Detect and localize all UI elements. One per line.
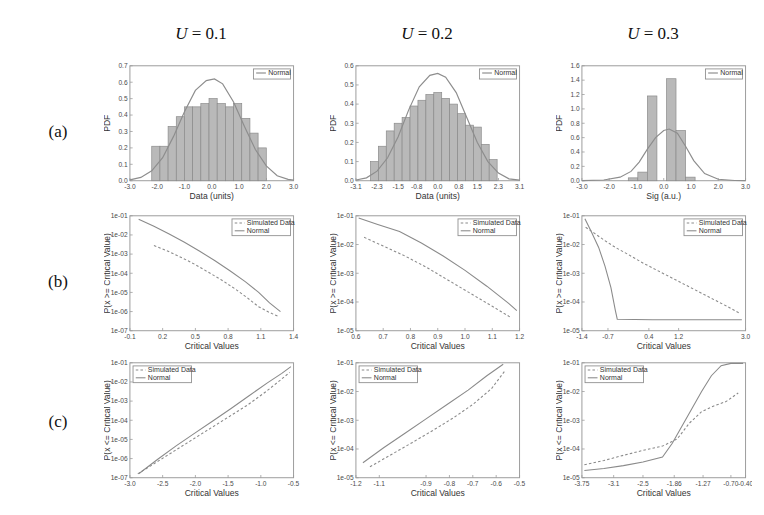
x-axis-label: Data (units) (416, 191, 460, 201)
legend-label: Normal (720, 69, 743, 76)
x-tick-label: -1.86 (667, 480, 682, 487)
histogram-bar (217, 104, 225, 181)
histogram-bar (450, 104, 458, 181)
x-tick-label: 3.0 (289, 183, 299, 190)
panel-c-u03: -3.75-3.1-2.5-1.86-1.27-0.70-0.401e-051e… (556, 355, 752, 505)
y-axis-label: P(x <= Critical Value) (104, 380, 112, 460)
row-label-b: (b) (38, 272, 78, 292)
x-tick-label: 1.2 (674, 333, 684, 340)
y-tick-label: 0.1 (344, 158, 354, 165)
y-tick-label: 1e-05 (111, 289, 128, 296)
histogram-bar (418, 100, 426, 180)
x-tick-label: 1.0 (686, 183, 696, 190)
y-tick-label: 1e-02 (111, 231, 128, 238)
y-tick-label: 1e-02 (111, 378, 128, 385)
legend-label: Simulated Data (600, 366, 648, 373)
x-axis-label: Data (units) (190, 191, 234, 201)
y-tick-label: 0.4 (570, 148, 580, 155)
panel-a-u03: -3.0-2.0-1.00.01.02.03.00.00.20.40.60.81… (556, 58, 752, 208)
column-header-u01-value: 0.1 (206, 24, 227, 43)
x-axis-label: Critical Values (185, 341, 239, 351)
x-tick-label: -0.40 (738, 480, 752, 487)
y-tick-label: 0.6 (570, 134, 580, 141)
x-tick-label: 2.3 (494, 183, 504, 190)
y-tick-label: 1e-01 (111, 212, 128, 219)
column-header-u03-var: U (627, 24, 639, 43)
x-axis-label: Critical Values (411, 341, 465, 351)
x-tick-label: 1.1 (488, 333, 498, 340)
y-tick-label: 1e-02 (563, 241, 580, 248)
y-tick-label: 0.0 (344, 177, 354, 184)
y-tick-label: 0.4 (118, 111, 128, 118)
x-tick-label: -0.5 (288, 480, 300, 487)
x-tick-label: -2.3 (371, 183, 383, 190)
histogram-bar (184, 107, 192, 181)
x-axis-label: Critical Values (411, 488, 465, 498)
y-axis-label: PDF (556, 115, 564, 132)
histogram-bar (386, 131, 394, 181)
simulated-data-curve (138, 372, 290, 474)
x-tick-label: -1.0 (179, 183, 191, 190)
histogram-bar (394, 123, 402, 180)
y-tick-label: 1.6 (570, 62, 580, 69)
simulated-data-curve (364, 237, 511, 317)
x-tick-label: -2.5 (637, 480, 649, 487)
y-tick-label: 1e-03 (111, 397, 128, 404)
figure-canvas: U = 0.1 U = 0.2 U = 0.3 (a) (b) (c) -3.0… (0, 0, 764, 515)
plot-a-u01: -3.0-2.0-1.00.01.02.03.00.00.10.20.30.40… (104, 58, 300, 208)
x-tick-label: 0.9 (433, 333, 443, 340)
histogram-bar (628, 178, 638, 181)
y-tick-label: 1e-05 (563, 327, 580, 334)
y-tick-label: 1e-02 (563, 388, 580, 395)
x-tick-label: -0.8 (444, 480, 456, 487)
histogram-bar (410, 106, 418, 181)
column-header-u01-var: U (175, 24, 187, 43)
y-tick-label: 1e-01 (337, 359, 354, 366)
histogram-bar (168, 127, 176, 181)
y-axis-label: P(x >= Critical Value) (104, 233, 112, 313)
x-tick-label: 0.0 (207, 183, 217, 190)
y-tick-label: 1e-04 (563, 445, 580, 452)
x-tick-label: 0.0 (659, 183, 669, 190)
x-tick-label: 1.2 (515, 333, 525, 340)
legend-label: Normal (268, 69, 291, 76)
legend-label: Simulated Data (374, 366, 422, 373)
plot-b-u01: -0.10.20.50.81.11.41e-071e-061e-051e-041… (104, 208, 300, 358)
x-tick-label: -1.27 (696, 480, 711, 487)
histogram-bar (160, 146, 168, 180)
y-tick-label: 1e-03 (337, 270, 354, 277)
row-label-a: (a) (38, 122, 78, 142)
column-header-u01: U = 0.1 (146, 24, 256, 44)
x-tick-label: -2.0 (151, 183, 163, 190)
plot-a-u03: -3.0-2.0-1.00.01.02.03.00.00.20.40.60.81… (556, 58, 752, 208)
x-tick-label: -1.0 (255, 480, 267, 487)
panel-c-u02: -1.2-1.1-0.9-0.8-0.7-0.6-0.51e-051e-041e… (330, 355, 526, 505)
histogram-bar (193, 107, 201, 181)
y-tick-label: 1e-04 (111, 417, 128, 424)
y-tick-label: 0.2 (570, 163, 580, 170)
column-header-u02: U = 0.2 (372, 24, 482, 44)
legend-label: Normal (600, 374, 623, 381)
panel-b-u03: -1.4-0.70.41.23.01e-051e-041e-031e-021e-… (556, 208, 752, 358)
y-tick-label: 1.2 (570, 91, 580, 98)
normal-curve (582, 129, 746, 181)
x-tick-label: -2.0 (603, 183, 615, 190)
histogram-bar (242, 118, 250, 180)
y-tick-label: 0.2 (118, 144, 128, 151)
y-tick-label: 1e-03 (337, 417, 354, 424)
y-tick-label: 1e-05 (337, 327, 354, 334)
x-tick-label: 0.8 (224, 333, 234, 340)
x-axis-label: Critical Values (185, 488, 239, 498)
x-tick-label: 2.0 (262, 183, 272, 190)
column-header-u02-op: = (413, 24, 431, 43)
y-tick-label: 0.8 (570, 120, 580, 127)
legend-label: Simulated Data (247, 219, 295, 226)
x-tick-label: -1.5 (222, 480, 234, 487)
x-tick-label: 0.0 (433, 183, 443, 190)
x-tick-label: -0.8 (411, 183, 423, 190)
histogram-bar (225, 107, 233, 181)
y-tick-label: 1e-04 (111, 270, 128, 277)
x-tick-label: 1.0 (234, 183, 244, 190)
histogram-bar (638, 172, 648, 181)
column-header-u03-op: = (639, 24, 657, 43)
